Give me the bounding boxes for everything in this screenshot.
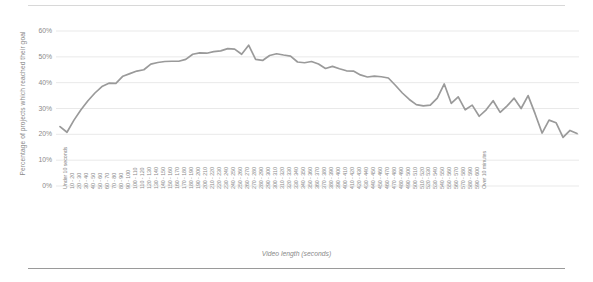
x-axis-tick-label: 280 - 290 xyxy=(258,167,264,189)
chart-canvas xyxy=(0,0,593,282)
x-axis-tick-label: 390 - 400 xyxy=(335,167,341,189)
x-axis-tick-label: 320 - 330 xyxy=(286,167,292,189)
x-axis-tick-label: 490 - 500 xyxy=(405,167,411,189)
y-axis-tick-label: 60% xyxy=(26,27,52,34)
x-axis-tick-label: 240 - 250 xyxy=(230,167,236,189)
x-axis-tick-label: 50 - 60 xyxy=(97,173,103,189)
x-axis-tick-label: 460 - 470 xyxy=(384,167,390,189)
x-axis-tick-label: Under 10 seconds xyxy=(62,147,68,189)
x-axis-tick-label: 380 - 390 xyxy=(328,167,334,189)
x-axis-tick-label: 510 - 520 xyxy=(419,167,425,189)
x-axis-tick-label: 290 - 300 xyxy=(265,167,271,189)
gridlines xyxy=(56,31,579,186)
x-axis-tick-label: 180 - 190 xyxy=(188,167,194,189)
x-axis-tick-label: 80 - 90 xyxy=(118,173,124,189)
x-axis-tick-label: 20 - 30 xyxy=(76,173,82,189)
x-axis-tick-label: 520 - 530 xyxy=(425,167,431,189)
x-axis-tick-label: 30 - 40 xyxy=(83,173,89,189)
x-axis-tick-label: 160 - 170 xyxy=(174,167,180,189)
y-axis-tick-label: 0% xyxy=(26,182,52,189)
x-axis-tick-label: 220 - 230 xyxy=(216,167,222,189)
x-axis-tick-label: 90 - 100 xyxy=(125,170,131,189)
x-axis-tick-label: 450 - 460 xyxy=(377,167,383,189)
x-axis-tick-label: 170 - 180 xyxy=(181,167,187,189)
x-axis-tick-label: 580 - 590 xyxy=(467,167,473,189)
x-axis-tick-label: 530 - 540 xyxy=(432,167,438,189)
x-axis-tick-label: 310 - 320 xyxy=(279,167,285,189)
x-axis-tick-label: 330 - 340 xyxy=(293,167,299,189)
x-axis-tick-label: 10 - 20 xyxy=(69,173,75,189)
y-axis-tick-label: 50% xyxy=(26,53,52,60)
x-axis-tick-label: 350 - 360 xyxy=(307,167,313,189)
x-axis-tick-label: 270 - 280 xyxy=(251,167,257,189)
x-axis-tick-label: 360 - 370 xyxy=(314,167,320,189)
chart-figure: Percentage of projects which reached the… xyxy=(0,0,593,282)
x-axis-tick-label: 100 - 110 xyxy=(132,168,138,189)
x-axis-tick-label: 190 - 200 xyxy=(195,167,201,189)
x-axis-tick-label: 590 - 600 xyxy=(474,167,480,189)
x-axis-tick-label: 340 - 350 xyxy=(300,167,306,189)
x-axis-tick-label: 370 - 380 xyxy=(321,167,327,189)
x-axis-tick-label: 300 - 310 xyxy=(272,167,278,189)
y-axis-tick-label: 30% xyxy=(26,105,52,112)
x-axis-tick-label: 430 - 440 xyxy=(363,167,369,189)
x-axis-tick-label: 40 - 50 xyxy=(90,173,96,189)
x-axis-tick-label: Over 10 minutes xyxy=(481,151,487,189)
x-axis-tick-label: 60 - 70 xyxy=(104,173,110,189)
x-axis-tick-label: 410 - 420 xyxy=(349,167,355,189)
x-axis-tick-label: 250 - 260 xyxy=(237,167,243,189)
x-axis-tick-label: 540 - 550 xyxy=(439,167,445,189)
x-axis-tick-label: 420 - 430 xyxy=(356,167,362,189)
y-axis-tick-label: 40% xyxy=(26,79,52,86)
data-series-line xyxy=(60,45,577,137)
x-axis-tick-label: 400 - 410 xyxy=(342,167,348,189)
plot-area: Percentage of projects which reached the… xyxy=(0,0,593,282)
x-axis-tick-label: 210 - 220 xyxy=(209,167,215,189)
x-axis-tick-label: 140 - 150 xyxy=(160,167,166,189)
x-axis-tick-label: 570 - 580 xyxy=(460,167,466,189)
x-axis-tick-label: 440 - 450 xyxy=(370,167,376,189)
x-axis-tick-label: 560 - 570 xyxy=(453,167,459,189)
x-axis-tick-label: 120 - 130 xyxy=(146,167,152,189)
x-axis-tick-label: 550 - 560 xyxy=(446,167,452,189)
x-axis-tick-label: 130 - 140 xyxy=(153,167,159,189)
x-axis-tick-label: 200 - 210 xyxy=(202,167,208,189)
x-axis-tick-label: 230 - 240 xyxy=(223,167,229,189)
x-axis-tick-label: 480 - 490 xyxy=(398,167,404,189)
x-axis-tick-label: 150 - 160 xyxy=(167,167,173,189)
x-axis-tick-label: 500 - 510 xyxy=(412,167,418,189)
x-axis-tick-label: 70 - 80 xyxy=(111,173,117,189)
x-axis-tick-label: 470 - 480 xyxy=(391,167,397,189)
x-axis-tick-label: 110 - 120 xyxy=(139,168,145,189)
y-axis-tick-label: 10% xyxy=(26,156,52,163)
x-axis-tick-label: 260 - 270 xyxy=(244,167,250,189)
y-axis-tick-label: 20% xyxy=(26,130,52,137)
